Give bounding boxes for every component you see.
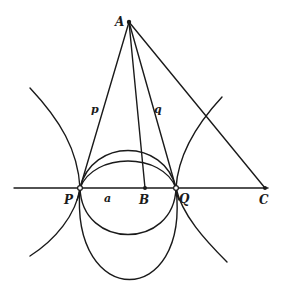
label-B: B — [138, 193, 149, 207]
upper-arc-outer — [80, 151, 176, 189]
right-branch-upper — [176, 97, 222, 188]
label-Q: Q — [179, 192, 190, 206]
point-C — [263, 186, 267, 190]
lower-loop-large — [79, 188, 177, 280]
label-a: a — [104, 192, 111, 205]
geometry-figure: A p q P a B Q C — [0, 0, 281, 300]
line-AQ — [129, 22, 176, 188]
label-p: p — [91, 103, 99, 116]
label-C: C — [259, 193, 269, 207]
lower-loop-small — [80, 188, 176, 235]
point-B — [143, 186, 147, 190]
point-A — [127, 20, 131, 24]
line-AC — [129, 22, 265, 188]
upper-arc-inner — [80, 161, 176, 188]
point-P — [78, 186, 83, 191]
label-A: A — [114, 15, 124, 29]
label-P: P — [63, 193, 74, 207]
label-q: q — [154, 103, 162, 116]
line-AP — [80, 22, 129, 188]
left-branch-upper — [30, 88, 80, 188]
point-Q — [174, 186, 179, 191]
